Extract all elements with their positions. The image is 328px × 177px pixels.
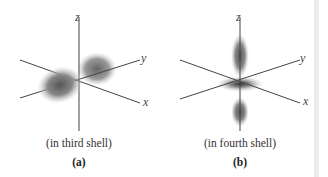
panel-a-label: (a)	[59, 157, 99, 169]
panel-a-z-label: z	[75, 11, 80, 23]
panel-a-x-label: x	[143, 96, 148, 108]
panel-a-caption: (in third shell)	[9, 138, 149, 150]
panel-b-y-label: y	[300, 52, 305, 64]
panel-a-y-label: y	[141, 52, 146, 64]
panel-b-caption: (in fourth shell)	[170, 138, 310, 150]
panel-b-z-label: z	[236, 11, 241, 23]
panel-a-figure	[20, 17, 140, 131]
panel-b-x-label: x	[303, 95, 308, 107]
panel-b-label: (b)	[220, 157, 260, 169]
orbital-diagrams	[0, 0, 328, 177]
panel-b-figure	[180, 17, 300, 131]
